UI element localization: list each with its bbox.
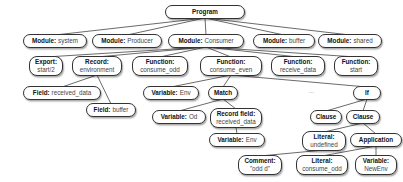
node-clause1: Clause — [310, 110, 342, 124]
edge — [231, 75, 367, 87]
node-kind: Literal: — [314, 133, 335, 141]
edge — [205, 18, 206, 35]
node-kind: Clause — [353, 113, 374, 121]
node-value: received_data — [52, 89, 92, 97]
node-kind: Function: — [217, 58, 246, 66]
node-fn-start: Function:start — [334, 56, 378, 76]
node-kind: Module: — [263, 37, 287, 45]
edge — [205, 18, 350, 35]
node-kind: Export: — [35, 58, 57, 66]
node-kind: Module: — [101, 37, 125, 45]
node-kind: Record field: — [217, 110, 256, 118]
node-kind: Match — [214, 89, 232, 97]
node-comment: Comment:"odd d" — [238, 155, 282, 175]
node-kind: Module: — [32, 37, 56, 45]
node-lit-consume-odd: Literal:consume_odd — [296, 155, 348, 175]
node-kind: Application — [359, 136, 393, 144]
ellipsis-label: ... — [309, 88, 314, 94]
node-value: system — [58, 37, 78, 45]
node-fn-consume-odd: Function:consume_odd — [132, 56, 188, 76]
node-value: start/2 — [37, 66, 55, 74]
node-mod-producer: Module:Producer — [92, 34, 162, 48]
node-if: If — [353, 86, 381, 100]
edge — [127, 18, 205, 35]
node-value: environment — [80, 66, 115, 74]
node-kind: Clause — [316, 113, 337, 121]
node-value: consume_odd — [140, 66, 180, 74]
node-value: consume_even — [210, 66, 253, 74]
node-value: consume_odd — [302, 165, 342, 173]
node-var-env2: Variable:Env — [209, 133, 265, 147]
node-kind: Function: — [146, 58, 175, 66]
node-field-received: Field:received_data — [23, 86, 101, 100]
node-fn-receive-data: Function:receive_data — [271, 56, 325, 76]
node-kind: Function: — [342, 58, 371, 66]
node-kind: Comment: — [244, 157, 275, 165]
node-kind: Module: — [327, 37, 351, 45]
node-export: Export:start/2 — [29, 56, 63, 76]
node-mod-consumer: Module:Consumer — [168, 34, 244, 48]
node-clause2: Clause — [346, 110, 380, 124]
node-value: shared — [353, 37, 372, 45]
node-kind: Program — [192, 8, 218, 16]
node-value: Env — [180, 89, 191, 97]
node-mod-buffer: Module:buffer — [253, 34, 315, 48]
node-field-buffer: Field:buffer — [86, 103, 136, 117]
node-var-newenv: Variable:NewEnv — [355, 155, 397, 175]
node-kind: Variable: — [363, 157, 389, 165]
node-mod-shared: Module:shared — [318, 34, 382, 48]
node-var-env1: Variable:Env — [143, 86, 199, 100]
node-value: NewEnv — [364, 165, 387, 173]
node-record-field: Record field:received_data — [210, 108, 262, 128]
node-value: Consumer — [205, 37, 234, 45]
node-value: Od — [189, 113, 197, 121]
node-fn-consume-even: Function:consume_even — [200, 56, 262, 76]
node-var-od: Variable:Od — [152, 110, 206, 124]
node-value: receive_data — [280, 66, 316, 74]
node-kind: Variable: — [151, 89, 177, 97]
node-mod-system: Module:system — [23, 34, 87, 48]
node-kind: Module: — [178, 37, 202, 45]
node-value: buffer — [112, 106, 128, 114]
node-value: start — [350, 66, 362, 74]
node-application: Application — [350, 133, 402, 147]
node-value: Env — [246, 136, 257, 144]
edge — [55, 18, 205, 35]
node-kind: Variable: — [217, 136, 243, 144]
edge — [205, 18, 284, 35]
node-match: Match — [208, 86, 238, 100]
node-value: "odd d" — [250, 165, 270, 173]
node-kind: Variable: — [161, 113, 187, 121]
node-kind: Field: — [94, 106, 111, 114]
node-value: buffer — [289, 37, 305, 45]
node-value: received_data — [216, 118, 256, 126]
node-kind: Record: — [85, 58, 109, 66]
node-kind: Function: — [284, 58, 313, 66]
node-value: Producer — [127, 37, 153, 45]
node-kind: Literal: — [312, 157, 333, 165]
node-lit-undefined: Literal:undefined — [302, 131, 346, 151]
node-program: Program — [165, 5, 245, 19]
node-kind: If — [365, 89, 369, 97]
node-value: undefined — [310, 141, 338, 149]
node-record-env: Record:environment — [72, 56, 122, 76]
node-kind: Field: — [33, 89, 50, 97]
